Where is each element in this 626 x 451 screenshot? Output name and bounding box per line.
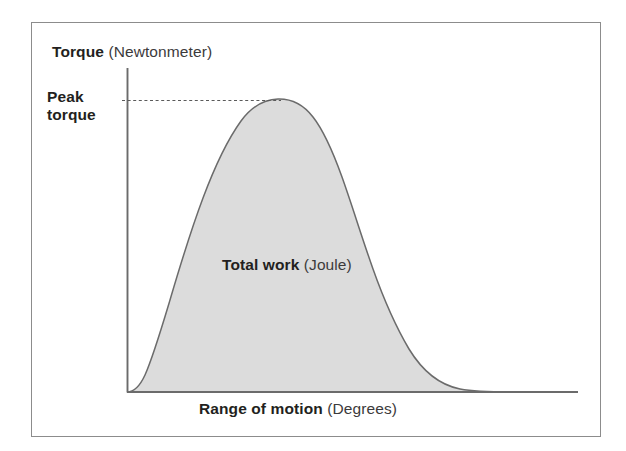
total-work-label: Total work (Joule) [222,256,352,274]
y-axis-title: Torque (Newtonmeter) [52,43,212,61]
x-axis-title-unit: (Degrees) [323,400,397,417]
total-work-label-unit: (Joule) [299,256,351,273]
peak-torque-label-line1: Peak [47,88,96,106]
peak-torque-label-line2: torque [47,106,96,124]
peak-torque-label: Peak torque [47,88,96,125]
x-axis-title: Range of motion (Degrees) [199,400,397,418]
y-axis-title-unit: (Newtonmeter) [104,43,212,60]
y-axis-title-bold: Torque [52,43,104,60]
figure-frame [31,22,601,437]
total-work-label-bold: Total work [222,256,299,273]
x-axis-title-bold: Range of motion [199,400,323,417]
